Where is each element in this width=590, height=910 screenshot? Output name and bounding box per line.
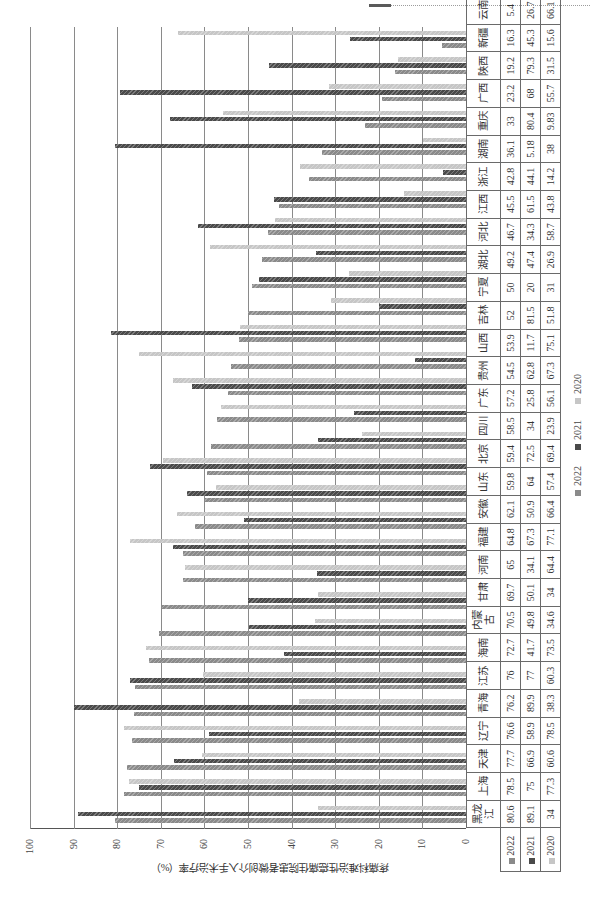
table-value-cell: 64.4	[541, 551, 561, 579]
table-value-cell: 19.2	[501, 52, 521, 80]
table-value-cell: 59.8	[501, 468, 521, 496]
bar-2020	[349, 271, 466, 276]
table-value-cell: 55.7	[541, 80, 561, 108]
bar-2020	[202, 753, 466, 758]
table-value-cell: 77	[521, 662, 541, 690]
table-category-cell: 北京	[467, 440, 501, 468]
table-value-cell: 49.8	[521, 606, 541, 634]
legend-label: 2020	[572, 374, 584, 394]
bar-2021	[248, 598, 466, 603]
table-value-cell: 45.3	[521, 24, 541, 52]
table-category-cell: 湖北	[467, 246, 501, 274]
bar-2020	[178, 31, 466, 36]
bar-2022	[162, 605, 466, 610]
bar-2021	[170, 117, 466, 122]
table-row-header: 2020	[541, 828, 561, 872]
bar-2020	[210, 245, 466, 250]
table-value-cell: 66.9	[521, 745, 541, 773]
bar-2021	[443, 170, 466, 175]
table-value-cell: 64	[521, 468, 541, 496]
bar-2020	[163, 458, 466, 463]
bar-2022	[211, 444, 466, 449]
bar-2020	[130, 539, 466, 544]
gridline	[30, 27, 31, 829]
table-category-cell: 新疆	[467, 24, 501, 52]
bar-2022	[365, 123, 466, 128]
table-category-cell: 甘肃	[467, 579, 501, 607]
table-value-cell: 34	[541, 579, 561, 607]
bar-2021	[78, 812, 466, 817]
bar-2022	[252, 284, 467, 289]
table-value-cell: 52	[501, 301, 521, 329]
bar-2022	[127, 765, 466, 770]
table-value-cell: 16.3	[501, 24, 521, 52]
bar-2020	[331, 298, 466, 303]
table-category-cell: 重庆	[467, 107, 501, 135]
bar-2022	[195, 524, 466, 529]
table-value-cell: 77.3	[541, 773, 561, 801]
bar-2022	[382, 97, 466, 102]
table-category-cell: 贵州	[467, 357, 501, 385]
table-value-cell: 43.8	[541, 190, 561, 218]
bar-2022	[239, 337, 466, 342]
bar-2021	[259, 277, 466, 282]
table-value-cell: 69.4	[541, 440, 561, 468]
table-value-cell: 44.1	[521, 163, 541, 191]
table-row-header: 2022	[501, 828, 521, 872]
bar-2021	[318, 438, 466, 443]
bar-2020	[329, 84, 466, 89]
table-category-cell: 湖南	[467, 135, 501, 163]
table-value-cell: 11.7	[521, 329, 541, 357]
table-value-cell: 75.1	[541, 329, 561, 357]
table-value-cell: 34.6	[541, 606, 561, 634]
bar-2021	[379, 304, 466, 309]
table-value-cell: 59.4	[501, 440, 521, 468]
bar-2022	[135, 685, 466, 690]
table-value-cell: 26.9	[541, 246, 561, 274]
table-value-cell: 50	[501, 274, 521, 302]
table-value-cell: 20	[521, 274, 541, 302]
table-value-cell: 23.9	[541, 412, 561, 440]
bar-2021	[316, 251, 466, 256]
table-category-cell: 河南	[467, 551, 501, 579]
table-value-cell: 66.1	[541, 0, 561, 24]
bar-2021	[317, 571, 466, 576]
bar-2020	[173, 378, 466, 383]
table-value-cell: 38	[541, 135, 561, 163]
table-value-cell: 34	[521, 412, 541, 440]
table-value-cell: 9.83	[541, 107, 561, 135]
table-value-cell: 81.5	[521, 301, 541, 329]
bar-2021	[111, 331, 466, 336]
bar-2020	[129, 779, 466, 784]
legend-swatch-icon	[549, 858, 555, 864]
bar-2022	[183, 551, 466, 556]
table-value-cell: 66.4	[541, 495, 561, 523]
table-value-cell: 45.5	[501, 190, 521, 218]
table-value-cell: 67.3	[521, 523, 541, 551]
table-value-cell: 70.5	[501, 606, 521, 634]
bar-2021	[130, 678, 466, 683]
table-value-cell: 89.9	[521, 689, 541, 717]
bar-2022	[248, 311, 466, 316]
table-category-row: 黑龙江上海天津辽宁青海江苏海南内蒙古甘肃河南福建安徽山东北京四川广东贵州山西吉林…	[467, 0, 501, 872]
legend-swatch-icon	[509, 858, 515, 864]
bar-2022	[183, 578, 466, 583]
table-value-cell: 33	[501, 107, 521, 135]
legend-item-2020: 2020	[572, 374, 584, 404]
table-value-cell: 50.1	[521, 579, 541, 607]
table-category-cell: 江苏	[467, 662, 501, 690]
table-category-cell: 河北	[467, 218, 501, 246]
table-value-cell: 67.3	[541, 357, 561, 385]
bar-2021	[249, 625, 466, 630]
bar-2020	[221, 405, 466, 410]
table-value-cell: 31	[541, 274, 561, 302]
table-category-cell: 广东	[467, 385, 501, 413]
table-category-cell: 黑龙江	[467, 800, 501, 828]
bar-2021	[354, 411, 466, 416]
y-tick-label: 90	[68, 839, 80, 890]
table-row-label: 2020	[545, 836, 556, 856]
table-value-cell: 58.5	[501, 412, 521, 440]
bar-2020	[362, 432, 466, 437]
bar-2020	[315, 619, 466, 624]
table-value-cell: 73.5	[541, 634, 561, 662]
